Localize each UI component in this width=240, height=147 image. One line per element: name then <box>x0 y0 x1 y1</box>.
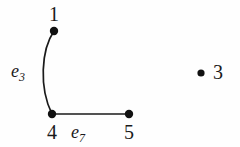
edge-label-e7-base: e <box>71 122 79 142</box>
vertex-dot-4 <box>48 110 56 118</box>
vertex-dot-3 <box>197 69 204 76</box>
edge-label-e3-subscript: 3 <box>19 70 25 84</box>
edge-label-e3-base: e <box>11 61 19 81</box>
edge-label-e3: e3 <box>11 62 25 80</box>
vertex-label-1: 1 <box>44 4 64 24</box>
vertex-dot-1 <box>50 27 58 35</box>
graph-figure: 1 4 5 3 e3 e7 <box>0 0 240 147</box>
edge-label-e7-subscript: 7 <box>79 131 85 145</box>
edge-label-e7: e7 <box>71 123 85 141</box>
vertex-label-3: 3 <box>208 62 228 82</box>
vertex-label-4: 4 <box>42 122 62 142</box>
vertex-label-5: 5 <box>119 122 139 142</box>
edge-e3 <box>43 31 54 114</box>
vertex-dot-5 <box>125 110 133 118</box>
